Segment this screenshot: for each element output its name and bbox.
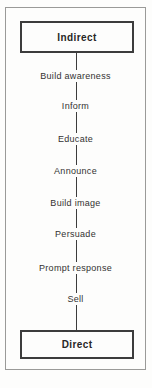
indirect-box: Indirect <box>20 21 134 53</box>
diagram-canvas: Indirect Build awareness Inform Educate … <box>0 0 152 388</box>
direct-box-label: Direct <box>62 339 93 350</box>
step-sell: Sell <box>63 293 87 305</box>
step-announce: Announce <box>50 165 101 177</box>
indirect-box-label: Indirect <box>57 32 96 43</box>
direct-box: Direct <box>20 330 134 359</box>
step-build-image: Build image <box>46 197 104 209</box>
connector-line <box>76 53 77 331</box>
step-prompt-response: Prompt response <box>35 262 116 274</box>
step-build-awareness: Build awareness <box>36 70 115 82</box>
step-inform: Inform <box>58 100 93 112</box>
step-persuade: Persuade <box>51 228 100 240</box>
step-educate: Educate <box>54 133 97 145</box>
diagram-frame: Indirect Build awareness Inform Educate … <box>5 7 146 370</box>
